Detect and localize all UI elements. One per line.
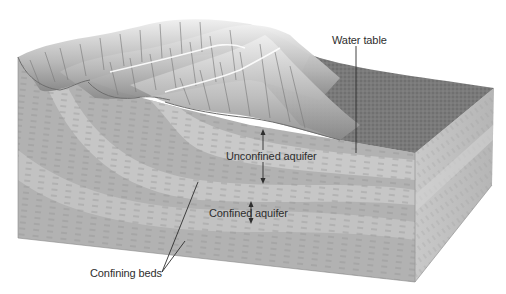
confining-beds-label: Confining beds	[90, 267, 162, 279]
water-table-label: Water table	[332, 34, 387, 46]
confined-aquifer-label-right: aquifer	[255, 207, 288, 219]
block-diagram-graphic	[0, 0, 506, 294]
unconfined-aquifer-label: Unconfined aquifer	[226, 150, 317, 162]
confined-aquifer-label-left: Confined	[209, 207, 252, 219]
aquifer-block-diagram: Water table Unconfined aquifer Confined …	[0, 0, 506, 294]
